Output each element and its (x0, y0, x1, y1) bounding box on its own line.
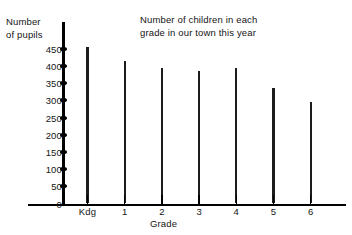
x-tick-label: 6 (291, 206, 331, 217)
y-tick-mark (60, 116, 67, 120)
y-tick-label: 50 (32, 181, 62, 192)
x-tick-mark (161, 195, 163, 204)
x-tick-mark (198, 195, 200, 204)
bar (86, 47, 88, 203)
x-tick-label: 3 (179, 206, 219, 217)
y-tick-mark (60, 133, 67, 137)
y-tick-mark (60, 81, 67, 85)
bar-chart-figure: Number of children in each grade in our … (0, 0, 352, 235)
bar (310, 102, 312, 203)
y-tick-mark (60, 150, 67, 154)
x-tick-mark (236, 195, 238, 204)
chart-title: Number of children in each grade in our … (140, 14, 340, 39)
y-tick-label: 300 (32, 95, 62, 106)
y-tick-label: 400 (32, 61, 62, 72)
x-tick-mark (310, 195, 312, 204)
y-tick-label: 450 (32, 43, 62, 54)
y-axis-title: Number of pupils (6, 16, 62, 41)
bar (198, 71, 200, 203)
x-tick-label: Kdg (68, 206, 108, 217)
x-tick-mark (273, 195, 275, 204)
y-tick-label: 0 (32, 198, 62, 209)
x-tick-label: 5 (254, 206, 294, 217)
x-tick-label: 1 (105, 206, 145, 217)
y-tick-mark (60, 47, 67, 51)
bar (235, 68, 237, 204)
y-tick-mark (60, 64, 67, 68)
y-tick-label: 350 (32, 78, 62, 89)
y-tick-label: 150 (32, 146, 62, 157)
y-tick-mark (60, 184, 67, 188)
x-tick-mark (124, 195, 126, 204)
x-tick-label: 4 (216, 206, 256, 217)
x-tick-label: 2 (142, 206, 182, 217)
x-axis-title: Grade (150, 218, 177, 229)
y-tick-label: 250 (32, 112, 62, 123)
bar (161, 68, 163, 204)
y-tick-label: 200 (32, 129, 62, 140)
x-tick-mark (87, 195, 89, 204)
y-tick-label: 100 (32, 164, 62, 175)
y-tick-mark (60, 167, 67, 171)
y-tick-mark (60, 98, 67, 102)
bar (124, 61, 126, 204)
bar (272, 88, 274, 203)
